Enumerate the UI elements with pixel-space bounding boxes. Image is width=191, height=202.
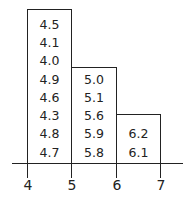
tick-6 <box>116 163 117 178</box>
tick-label-4: 4 <box>18 177 38 193</box>
value: 5.1 <box>84 89 104 107</box>
tick-label-7: 7 <box>151 177 171 193</box>
value: 5.9 <box>84 125 104 143</box>
x-axis <box>12 163 183 164</box>
tick-7 <box>160 163 161 178</box>
value: 4.5 <box>40 16 60 34</box>
tick-5 <box>71 163 72 178</box>
bin-4-5-values: 4.5 4.1 4.0 4.9 4.6 4.3 4.8 4.7 <box>28 16 71 162</box>
value: 4.8 <box>40 125 60 143</box>
bin-5-6-values: 5.0 5.1 5.6 5.9 5.8 <box>72 71 116 162</box>
value: 5.8 <box>84 144 104 162</box>
bin-6-7: 6.2 6.1 <box>116 114 161 164</box>
value: 5.6 <box>84 107 104 125</box>
tick-label-5: 5 <box>62 177 82 193</box>
value: 4.6 <box>40 89 60 107</box>
value: 4.7 <box>40 144 60 162</box>
value: 5.0 <box>84 71 104 89</box>
value: 4.9 <box>40 71 60 89</box>
bin-5-6: 5.0 5.1 5.6 5.9 5.8 <box>71 67 117 164</box>
value: 4.0 <box>40 52 60 70</box>
value: 4.1 <box>40 34 60 52</box>
tick-4 <box>27 163 28 178</box>
value: 4.3 <box>40 107 60 125</box>
value: 6.2 <box>129 125 149 143</box>
bin-6-7-values: 6.2 6.1 <box>117 125 160 162</box>
tick-label-6: 6 <box>107 177 127 193</box>
value: 6.1 <box>129 144 149 162</box>
bin-4-5: 4.5 4.1 4.0 4.9 4.6 4.3 4.8 4.7 <box>27 9 72 164</box>
